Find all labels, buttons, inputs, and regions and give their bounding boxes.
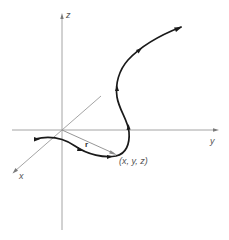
x-axis-label: x [19, 172, 24, 181]
x-axis [13, 96, 102, 174]
z-axis-arrow-icon [60, 13, 63, 19]
curve-end-arrow-icon [174, 27, 182, 32]
y-axis-label: y [210, 137, 215, 146]
trajectory-diagram [0, 0, 229, 240]
vector-r-label: r [85, 141, 88, 149]
y-axis-arrow-icon [213, 128, 219, 131]
z-axis [60, 13, 63, 230]
z-axis-label: z [66, 11, 71, 20]
y-axis [12, 128, 219, 131]
curve-direction-arrow-icon [77, 147, 84, 151]
vector-arrow-icon [109, 150, 117, 155]
curve-direction-arrow-icon [115, 85, 119, 91]
point-coordinates-label: (x, y, z) [119, 157, 148, 166]
trajectory-curve [34, 27, 182, 159]
